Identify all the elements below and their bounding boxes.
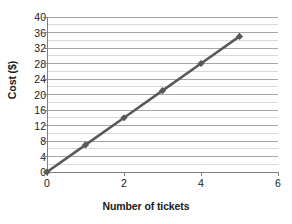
- plot-area: [0, 0, 292, 224]
- axis-tick-marks: [43, 17, 278, 176]
- x-axis-title: Number of tickets: [0, 200, 292, 212]
- data-series-cost: [43, 33, 243, 176]
- line-chart: Cost ($) 0481216202428323640 0246 Number…: [0, 0, 292, 224]
